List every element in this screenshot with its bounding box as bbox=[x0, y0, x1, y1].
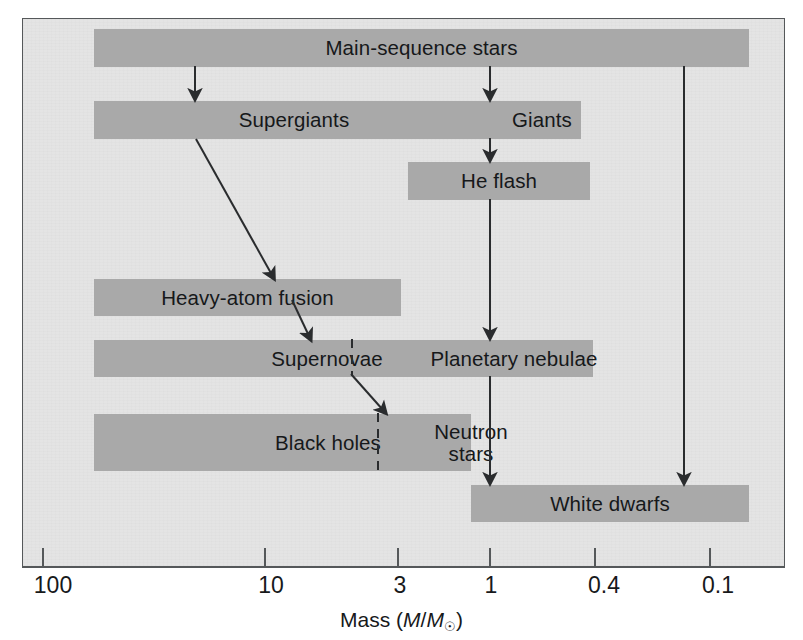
stage-bar-black-holes-neutron-stars: Black holes Neutron stars bbox=[94, 414, 471, 471]
axis-tick-3 bbox=[397, 548, 399, 567]
neutron-stars-line-2: stars bbox=[449, 443, 494, 464]
axis-tick-10 bbox=[264, 548, 266, 567]
axis-tick-0.1 bbox=[709, 548, 711, 567]
axis-tick-label-0.4: 0.4 bbox=[588, 572, 620, 599]
axis-tick-100 bbox=[42, 548, 44, 567]
axis-tick-0.4 bbox=[594, 548, 596, 567]
stage-bar-white-dwarfs: White dwarfs bbox=[471, 485, 749, 522]
mass-axis-line bbox=[22, 566, 785, 568]
stage-bar-he-flash: He flash bbox=[408, 162, 590, 200]
stage-label-black-holes: Black holes bbox=[236, 414, 420, 471]
axis-title-prefix: Mass ( bbox=[340, 608, 403, 631]
stage-label-planetary-nebulae: Planetary nebulae bbox=[394, 340, 634, 377]
axis-title-m-symbol: M bbox=[403, 608, 421, 631]
stage-bar-supergiants-giants: Supergiants Giants bbox=[94, 101, 581, 139]
stage-label-giants: Giants bbox=[474, 101, 610, 139]
axis-tick-label-100: 100 bbox=[34, 572, 72, 599]
stage-label-neutron-stars: Neutron stars bbox=[412, 414, 530, 471]
stellar-evolution-figure: Main-sequence stars Supergiants Giants H… bbox=[0, 0, 803, 640]
plot-area: Main-sequence stars Supergiants Giants H… bbox=[22, 18, 785, 567]
neutron-stars-line-1: Neutron bbox=[434, 421, 508, 442]
axis-tick-label-0.1: 0.1 bbox=[702, 572, 734, 599]
stage-label-white-dwarfs: White dwarfs bbox=[550, 492, 670, 516]
axis-title-m-sun-symbol: M bbox=[426, 608, 444, 631]
stage-bar-heavy-atom-fusion: Heavy-atom fusion bbox=[94, 279, 401, 316]
stage-label-supergiants: Supergiants bbox=[206, 101, 382, 139]
axis-tick-1 bbox=[489, 548, 491, 567]
stage-label-main-sequence-stars: Main-sequence stars bbox=[325, 36, 517, 60]
stage-label-he-flash: He flash bbox=[461, 169, 537, 193]
stage-label-supernovae: Supernovae bbox=[245, 340, 409, 377]
stage-bar-main-sequence-stars: Main-sequence stars bbox=[94, 29, 749, 67]
stage-label-heavy-atom-fusion: Heavy-atom fusion bbox=[161, 286, 334, 310]
axis-tick-label-1: 1 bbox=[485, 572, 498, 599]
axis-title-suffix: ) bbox=[456, 608, 463, 631]
axis-tick-label-10: 10 bbox=[258, 572, 284, 599]
sun-symbol-icon: ☉ bbox=[444, 619, 456, 634]
stage-bar-supernovae-planetary-nebulae: Supernovae Planetary nebulae bbox=[94, 340, 593, 377]
axis-title: Mass (M/M☉) bbox=[0, 608, 803, 634]
axis-tick-label-3: 3 bbox=[394, 572, 407, 599]
